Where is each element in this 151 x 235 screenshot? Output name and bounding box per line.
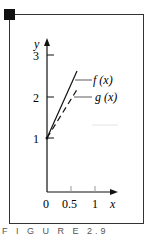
g-label: g (x) <box>95 90 117 104</box>
figure-caption: F I G U R E 2.9 <box>2 226 109 235</box>
corner-square-icon <box>4 9 15 20</box>
intercept-point <box>46 137 49 140</box>
x-tick-label-0: 0 <box>43 197 49 211</box>
y-tick-label-3: 3 <box>33 49 39 63</box>
x-tick-label-0.5: 0.5 <box>62 197 77 211</box>
figure-canvas: y 3 2 1 0 0.5 1 x f (x) g (x) <box>0 0 151 235</box>
series-g-line <box>47 88 78 138</box>
y-tick-label-1: 1 <box>33 132 39 146</box>
y-axis-arrow-icon <box>44 38 50 46</box>
y-tick-label-2: 2 <box>33 91 39 105</box>
x-tick-label-1: 1 <box>92 197 98 211</box>
series-f-line <box>47 71 77 138</box>
x-axis-label: x <box>109 197 116 211</box>
x-axis-arrow-icon <box>110 189 118 195</box>
f-label: f (x) <box>93 73 113 87</box>
